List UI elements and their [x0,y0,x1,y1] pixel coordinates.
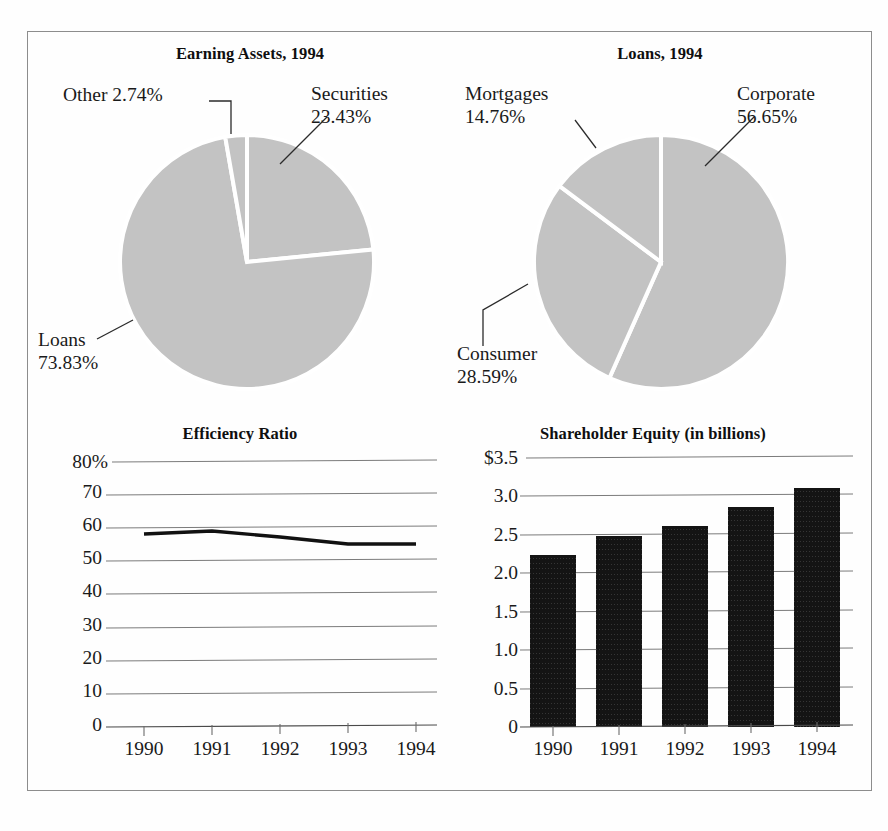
bar-1993 [728,507,774,727]
pie-label-securities: Securities 23.43% [311,82,388,128]
efficiency-plot [40,424,440,769]
leader-line-consumer [483,284,528,346]
pie-label-loans-value: 73.83% [38,351,98,374]
pie-label-corporate: Corporate 56.65% [737,82,815,128]
pie-label-corporate-name: Corporate [737,82,815,105]
figure-page: Earning Assets, 1994 Other 2.74% Securit… [0,0,888,831]
pie-label-corporate-value: 56.65% [737,105,815,128]
pie-label-securities-name: Securities [311,82,388,105]
pie-label-consumer: Consumer 28.59% [457,342,537,388]
x-axis-line [106,725,437,727]
xtick-equity-1994: 1994 [775,738,859,760]
pie-label-consumer-value: 28.59% [457,365,537,388]
pie-label-mortgages-name: Mortgages [465,82,548,105]
pie-label-other: Other 2.74% [63,84,163,106]
chart-shareholder-equity: Shareholder Equity (in billions) $3.5 3.… [448,424,858,769]
x-axis-ticks [144,722,416,736]
bar-1991 [596,536,642,727]
leader-line-mortgages [575,120,596,148]
bar-1992 [662,526,708,727]
gridlines [106,460,437,694]
bar-1994 [794,488,840,727]
pie-label-loans-name: Loans [38,328,98,351]
chart-earning-assets: Earning Assets, 1994 Other 2.74% Securit… [55,44,445,434]
efficiency-line-series [144,531,416,544]
pie-label-mortgages-value: 14.76% [465,105,548,128]
bar-1990 [530,555,576,727]
pie-slice-securities [247,135,373,262]
pie-label-loans: Loans 73.83% [38,328,98,374]
pie-label-mortgages: Mortgages 14.76% [465,82,548,128]
leader-line-loans [97,320,133,339]
chart-efficiency-ratio: Efficiency Ratio 80% 70 60 50 40 30 20 1… [40,424,440,769]
leader-line-other [209,101,231,134]
pie-label-consumer-name: Consumer [457,342,537,365]
pie-label-securities-value: 23.43% [311,105,388,128]
xtick-efficiency-1994: 1994 [374,738,458,760]
chart-loans: Loans, 1994 Mortgages 14.76% Corporate [465,44,855,434]
